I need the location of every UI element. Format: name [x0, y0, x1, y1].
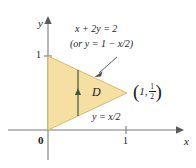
- boundary-equation-lower: y = x/2: [92, 112, 120, 122]
- region-label-d: D: [92, 86, 101, 98]
- point-y-numerator: 1: [150, 83, 154, 91]
- math-figure-region-d: y x 1 1 0 x + 2y = 2 (or y = 1 − x/2) y …: [0, 0, 196, 168]
- leader-line-upper-equation: [95, 57, 118, 77]
- point-comma: ,: [145, 86, 148, 97]
- vertex-point-label: ( 1 , 1 2 ): [133, 83, 162, 101]
- point-y-denominator: 2: [150, 93, 154, 101]
- x-axis-tick-1: 1: [123, 136, 128, 146]
- x-axis: [8, 126, 184, 134]
- origin-label: 0: [38, 135, 44, 146]
- y-axis-label: y: [38, 18, 43, 29]
- x-axis-label: x: [184, 136, 189, 147]
- point-close-paren: ): [156, 83, 162, 100]
- boundary-equation-upper-line1: x + 2y = 2: [75, 24, 117, 34]
- boundary-equation-upper-line2: (or y = 1 − x/2): [70, 39, 133, 49]
- y-axis-tick-1: 1: [36, 50, 41, 60]
- point-y-fraction: 1 2: [149, 83, 156, 101]
